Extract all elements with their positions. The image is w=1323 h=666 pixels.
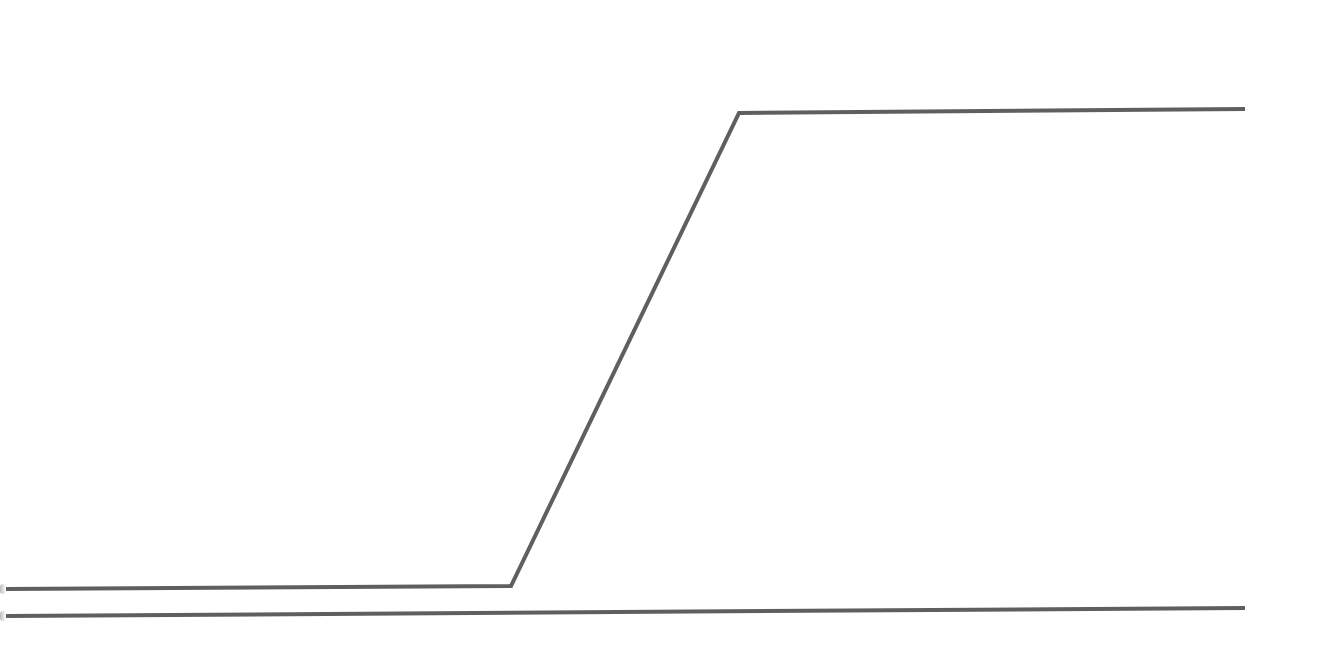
diagram-canvas [0,0,1323,666]
signal-trace-lower [6,608,1245,616]
signal-trace-upper [6,109,1245,589]
line-diagram [0,0,1323,666]
edge-marker-lower [0,611,6,621]
edge-marker-upper [0,584,6,594]
